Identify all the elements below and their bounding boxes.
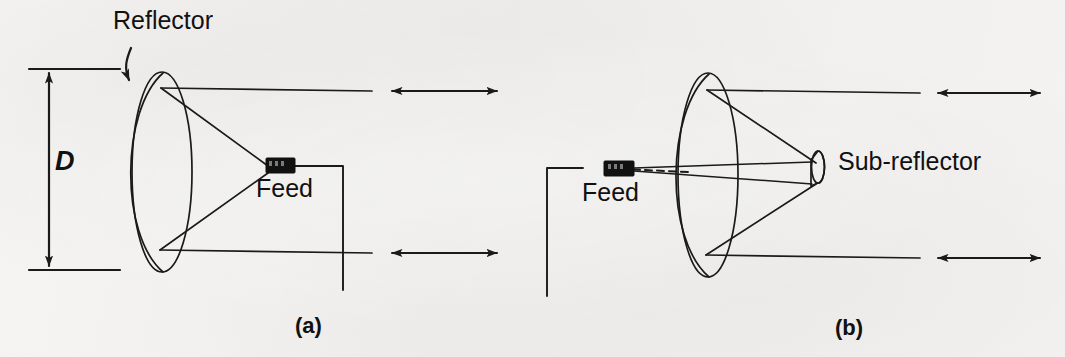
subreflector-ray-top-b bbox=[707, 90, 816, 163]
figure-drawing bbox=[0, 0, 1065, 357]
ray-top-b bbox=[707, 90, 920, 93]
focus-ray-bottom-a bbox=[160, 173, 268, 250]
feed-beam-upper-b bbox=[634, 162, 812, 168]
caption-b: (b) bbox=[835, 317, 863, 339]
feed-label-a: Feed bbox=[256, 176, 313, 201]
sub-reflector-label: Sub-reflector bbox=[838, 149, 981, 174]
focus-ray-top-a bbox=[161, 88, 268, 166]
feed-block-b-highlight-2 bbox=[614, 164, 617, 169]
reflector-leader-arrow bbox=[126, 48, 131, 80]
ray-bottom-b bbox=[706, 255, 920, 258]
reflector-rim-a bbox=[132, 72, 192, 272]
feed-block-b-highlight bbox=[608, 164, 611, 169]
feed-block-a-highlight-3 bbox=[281, 161, 284, 166]
ray-top-a bbox=[161, 88, 372, 91]
caption-a: (a) bbox=[295, 315, 322, 337]
reflector-surface-a bbox=[131, 73, 163, 272]
feed-block-a-highlight-2 bbox=[275, 161, 278, 166]
feed-block-a-highlight bbox=[269, 161, 272, 166]
feed-beam-lower-b bbox=[634, 171, 812, 184]
reflector-antenna-figure: Reflector D Feed Feed Sub-reflector (a) … bbox=[0, 0, 1065, 357]
waveguide-b bbox=[547, 168, 583, 296]
subreflector-face-b bbox=[812, 151, 825, 183]
diameter-label: D bbox=[55, 148, 75, 175]
feed-block-b-highlight-3 bbox=[620, 164, 623, 169]
feed-label-b: Feed bbox=[582, 180, 639, 205]
subreflector-ray-bottom-b bbox=[706, 184, 816, 255]
ray-bottom-a bbox=[160, 250, 372, 253]
reflector-label: Reflector bbox=[113, 8, 213, 33]
